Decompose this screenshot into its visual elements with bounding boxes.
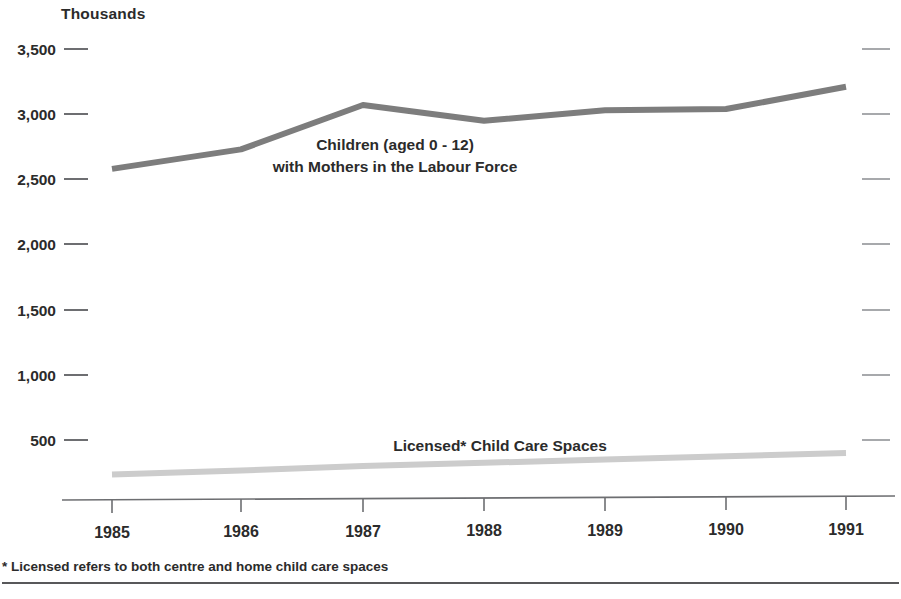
- y-axis-ticks-right: [862, 49, 890, 440]
- x-axis-line: [62, 496, 895, 500]
- chart-footnote: * Licensed refers to both centre and hom…: [2, 559, 388, 574]
- series-annotation-children: Children (aged 0 - 12) with Mothers in t…: [273, 134, 518, 179]
- series-annotation-children-line1: Children (aged 0 - 12): [316, 136, 474, 153]
- chart-figure: Thousands 3,500 3,000 2,500 2,000 1,500 …: [0, 0, 901, 599]
- x-tick-label-1990: 1990: [708, 522, 744, 538]
- series-annotation-licensed: Licensed* Child Care Spaces: [393, 435, 607, 457]
- x-tick-label-1991: 1991: [828, 522, 864, 538]
- chart-plot-area: [0, 0, 901, 599]
- series-annotation-licensed-line1: Licensed* Child Care Spaces: [393, 437, 607, 454]
- y-axis-ticks-left: [64, 49, 88, 440]
- x-tick-label-1986: 1986: [223, 524, 259, 540]
- x-tick-label-1989: 1989: [587, 523, 623, 539]
- bottom-divider: [2, 582, 899, 584]
- x-tick-label-1987: 1987: [345, 524, 381, 540]
- series-annotation-children-line2: with Mothers in the Labour Force: [273, 158, 518, 175]
- x-tick-label-1988: 1988: [466, 523, 502, 539]
- x-tick-label-1985: 1985: [94, 525, 130, 541]
